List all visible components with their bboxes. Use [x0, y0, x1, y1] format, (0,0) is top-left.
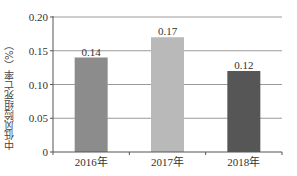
x-tick-label: 2017年 [151, 155, 184, 168]
y-tick-label: 0 [43, 146, 49, 158]
y-tick-label: 0.15 [29, 45, 49, 57]
bar-chart: 00.050.100.150.200.142016年0.172017年0.122… [0, 0, 297, 176]
chart-canvas: 00.050.100.150.200.142016年0.172017年0.122… [0, 0, 297, 176]
y-tick-label: 0.10 [29, 79, 49, 91]
x-tick-label: 2018年 [227, 155, 260, 168]
bar-2017年 [151, 37, 184, 152]
bar-2016年 [75, 58, 108, 153]
bar-2018年 [227, 71, 260, 152]
data-label: 0.14 [82, 46, 102, 58]
y-tick-label: 0.05 [29, 112, 49, 124]
x-tick-label: 2016年 [75, 155, 108, 168]
data-label: 0.12 [234, 59, 253, 71]
data-label: 0.17 [158, 25, 178, 37]
y-tick-label: 0.20 [29, 11, 49, 23]
y-axis-title: 中低风险组死亡率（%） [2, 40, 18, 150]
